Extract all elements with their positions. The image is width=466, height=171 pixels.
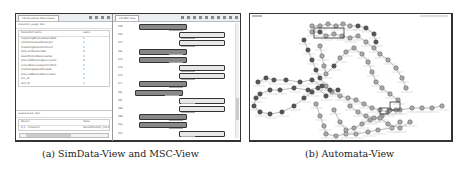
toolbar-icon[interactable] [101,16,104,19]
state-node[interactable] [280,110,285,115]
automata-graph[interactable] [250,14,451,140]
state-node[interactable] [398,120,403,125]
state-node[interactable] [278,88,283,93]
state-node[interactable] [372,46,377,51]
state-node[interactable] [254,96,259,101]
zoom-in-icon[interactable] [211,16,214,19]
state-node[interactable] [348,36,353,41]
state-node[interactable] [366,130,371,135]
state-node[interactable] [380,86,385,91]
state-node[interactable] [420,106,425,111]
state-node[interactable] [364,114,369,119]
state-node[interactable] [374,80,379,85]
state-node[interactable] [318,30,323,35]
state-node[interactable] [318,44,323,49]
state-node[interactable] [268,112,273,117]
state-node[interactable] [302,96,307,101]
state-node[interactable] [326,22,331,27]
table-row[interactable]: q 1 - (channel)lateralPosition_req.data [19,126,109,131]
state-node[interactable] [328,88,333,93]
state-node[interactable] [332,108,337,113]
state-node[interactable] [324,132,329,137]
state-node[interactable] [338,56,343,61]
state-node[interactable] [440,104,445,109]
page-icon[interactable] [199,16,202,19]
filter-icon[interactable] [223,16,226,19]
state-node[interactable] [362,102,367,107]
state-node[interactable] [324,72,329,77]
zoom-out-icon[interactable] [217,16,220,19]
state-node[interactable] [332,32,337,37]
state-node[interactable] [314,68,319,73]
state-node[interactable] [386,122,391,127]
state-node[interactable] [410,106,415,111]
state-node[interactable] [370,106,375,111]
state-node[interactable] [366,60,371,65]
state-node[interactable] [334,134,339,139]
state-node[interactable] [341,22,346,27]
state-node[interactable] [360,52,365,57]
forward-icon[interactable] [187,16,190,19]
state-node[interactable] [404,86,409,91]
state-node[interactable] [258,92,263,97]
state-node[interactable] [386,58,391,63]
state-node[interactable] [356,110,361,115]
msc-tab[interactable]: CSI MSC View [115,15,139,21]
state-node[interactable] [344,128,349,133]
state-node[interactable] [306,48,311,53]
state-node[interactable] [322,64,327,69]
state-node[interactable] [378,52,383,57]
state-node[interactable] [364,26,369,31]
vertical-scrollbar[interactable] [235,23,239,138]
scrollbar-thumb[interactable] [26,134,71,137]
pin-icon[interactable] [229,16,232,19]
state-node[interactable] [346,96,351,101]
state-node[interactable] [256,80,261,85]
state-node[interactable] [338,94,343,99]
state-node[interactable] [310,90,315,95]
state-node[interactable] [400,76,405,81]
state-node[interactable] [352,46,357,51]
state-node[interactable] [292,86,297,91]
state-node[interactable] [332,64,337,69]
state-node[interactable] [394,66,399,71]
state-node[interactable] [370,70,375,75]
state-node[interactable] [364,40,369,45]
state-node[interactable] [316,86,321,91]
state-node[interactable] [264,76,269,81]
scrollbar-thumb[interactable] [236,98,239,120]
state-node[interactable] [356,24,361,29]
state-node[interactable] [348,104,353,109]
toolbar-icon[interactable] [89,16,92,19]
state-node[interactable] [376,128,381,133]
state-node[interactable] [302,38,307,43]
state-node[interactable] [344,50,349,55]
state-node[interactable] [320,54,325,59]
menu-icon[interactable] [235,16,238,19]
state-node[interactable] [284,78,289,83]
state-node[interactable] [338,120,343,125]
state-node[interactable] [322,124,327,129]
state-node[interactable] [258,110,263,115]
state-node[interactable] [292,104,297,109]
state-node[interactable] [272,78,277,83]
state-node[interactable] [372,32,377,37]
edit-icon[interactable] [205,16,208,19]
state-node[interactable] [310,78,315,83]
simdata-tab[interactable]: CSI Simulation Data Viewer [18,15,59,21]
table-row[interactable]: slot_id1 [19,82,109,87]
state-node[interactable] [310,58,315,63]
state-node[interactable] [360,122,365,127]
state-node[interactable] [356,34,361,39]
toolbar-icon[interactable] [95,16,98,19]
horizontal-scrollbar[interactable] [19,133,109,138]
state-node[interactable] [354,98,359,103]
toolbar-icon[interactable] [107,16,110,19]
state-node[interactable] [314,102,319,107]
state-node[interactable] [430,106,435,111]
back-icon[interactable] [181,16,184,19]
state-node[interactable] [368,118,373,123]
state-node[interactable] [374,40,379,45]
state-node[interactable] [398,126,403,131]
state-node[interactable] [354,132,359,137]
